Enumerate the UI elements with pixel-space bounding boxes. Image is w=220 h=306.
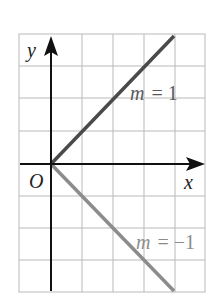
slope-graph: y x O m = 1 m = −1 bbox=[0, 0, 220, 306]
line2-label: m = −1 bbox=[136, 231, 195, 253]
line1-label: m = 1 bbox=[130, 82, 178, 104]
y-axis-label: y bbox=[25, 39, 36, 62]
x-axis-label: x bbox=[183, 171, 193, 193]
origin-label: O bbox=[29, 170, 43, 192]
